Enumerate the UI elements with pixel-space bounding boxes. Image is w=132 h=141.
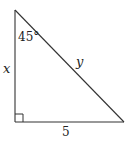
angle-label: 45°: [18, 31, 39, 43]
hypotenuse-y: [15, 10, 124, 122]
right-angle-marker: [15, 114, 23, 122]
hypotenuse-y-label: y: [76, 55, 83, 68]
side-x-label: x: [3, 62, 10, 75]
triangle-diagram: 45° x y 5: [0, 0, 132, 141]
base-length-label: 5: [62, 126, 70, 138]
triangle-figure: [0, 0, 132, 141]
